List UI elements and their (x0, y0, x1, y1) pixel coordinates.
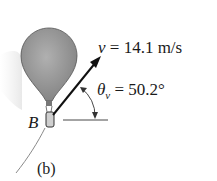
balloon-envelope (21, 28, 77, 101)
velocity-label: v = 14.1 m/s (98, 38, 182, 58)
point-b-label: B (28, 113, 38, 133)
balloon-neck (46, 101, 52, 106)
arc-arrowhead-icon (92, 112, 98, 119)
angle-label: θv = 50.2° (97, 80, 165, 101)
background-haze (0, 51, 22, 110)
figure-caption: (b) (37, 160, 56, 178)
